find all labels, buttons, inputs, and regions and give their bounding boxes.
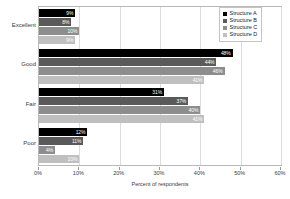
bar-value-label: 40% xyxy=(189,108,199,113)
y-tick-poor: Poor xyxy=(0,140,36,146)
bar-value-label: 44% xyxy=(205,59,215,64)
legend-swatch-icon xyxy=(223,33,227,37)
bar-group-fair: 31%37%40%41% xyxy=(39,88,281,124)
legend-label: Structure A xyxy=(230,11,257,17)
y-tick-good: Good xyxy=(0,61,36,67)
x-tick-label: 30% xyxy=(153,170,164,176)
legend-swatch-icon xyxy=(223,19,227,23)
x-axis: 0%10%20%30%40%50%60% xyxy=(38,167,282,179)
x-tick-label: 60% xyxy=(274,170,285,176)
legend-label: Structure B xyxy=(230,18,258,24)
x-tick-label: 50% xyxy=(234,170,245,176)
bar-row: 11% xyxy=(39,137,281,145)
bar-row: 41% xyxy=(39,115,281,123)
legend-swatch-icon xyxy=(223,12,227,16)
bar-row: 37% xyxy=(39,97,281,105)
bar-good-structure-d[interactable]: 41% xyxy=(39,76,204,84)
x-axis-title: Percent of respondents xyxy=(38,181,282,187)
bar-group-poor: 12%11%4%10% xyxy=(39,128,281,164)
bar-value-label: 10% xyxy=(68,156,78,161)
bar-value-label: 31% xyxy=(152,90,162,95)
bar-excellent-structure-c[interactable]: 10% xyxy=(39,27,79,35)
x-tick-label: 0% xyxy=(34,170,42,176)
bar-poor-structure-d[interactable]: 10% xyxy=(39,155,79,163)
bar-excellent-structure-b[interactable]: 8% xyxy=(39,18,71,26)
bar-value-label: 11% xyxy=(72,138,81,143)
bar-value-label: 9% xyxy=(66,38,73,43)
gridline xyxy=(281,7,282,165)
x-tick-label: 10% xyxy=(73,170,84,176)
bar-good-structure-b[interactable]: 44% xyxy=(39,58,216,66)
y-axis: ExcellentGoodFairPoor xyxy=(0,6,36,166)
bar-row: 12% xyxy=(39,128,281,136)
legend-item-structure-d[interactable]: Structure D xyxy=(223,32,257,38)
bar-fair-structure-c[interactable]: 40% xyxy=(39,106,200,114)
bar-poor-structure-b[interactable]: 11% xyxy=(39,137,83,145)
legend-item-structure-b[interactable]: Structure B xyxy=(223,18,257,24)
bar-good-structure-a[interactable]: 48% xyxy=(39,49,233,57)
x-tick-label: 20% xyxy=(113,170,124,176)
legend-label: Structure C xyxy=(230,25,258,31)
bar-row: 40% xyxy=(39,106,281,114)
bar-value-label: 9% xyxy=(66,11,73,16)
bar-row: 4% xyxy=(39,146,281,154)
legend: Structure AStructure BStructure CStructu… xyxy=(219,7,262,42)
bar-row: 41% xyxy=(39,76,281,84)
bar-value-label: 46% xyxy=(213,68,223,73)
bar-value-label: 41% xyxy=(193,117,203,122)
bar-row: 48% xyxy=(39,49,281,57)
bar-group-good: 48%44%46%41% xyxy=(39,49,281,85)
bar-value-label: 41% xyxy=(193,77,203,82)
bar-chart: ExcellentGoodFairPoor 9%8%10%9%48%44%46%… xyxy=(0,0,290,199)
bar-poor-structure-a[interactable]: 12% xyxy=(39,128,87,136)
bar-value-label: 37% xyxy=(177,99,187,104)
bar-fair-structure-a[interactable]: 31% xyxy=(39,88,164,96)
bar-value-label: 10% xyxy=(68,29,78,34)
bar-row: 46% xyxy=(39,67,281,75)
legend-item-structure-c[interactable]: Structure C xyxy=(223,25,257,31)
x-tick-label: 40% xyxy=(194,170,205,176)
y-tick-excellent: Excellent xyxy=(0,22,36,28)
bar-excellent-structure-a[interactable]: 9% xyxy=(39,9,75,17)
bar-excellent-structure-d[interactable]: 9% xyxy=(39,36,75,44)
bar-row: 31% xyxy=(39,88,281,96)
legend-label: Structure D xyxy=(230,32,258,38)
bar-fair-structure-d[interactable]: 41% xyxy=(39,115,204,123)
bar-fair-structure-b[interactable]: 37% xyxy=(39,97,188,105)
y-tick-fair: Fair xyxy=(0,101,36,107)
bar-value-label: 8% xyxy=(62,20,69,25)
legend-swatch-icon xyxy=(223,26,227,30)
bar-value-label: 12% xyxy=(76,129,86,134)
bar-good-structure-c[interactable]: 46% xyxy=(39,67,225,75)
bar-value-label: 48% xyxy=(221,50,231,55)
bar-row: 10% xyxy=(39,155,281,163)
bar-poor-structure-c[interactable]: 4% xyxy=(39,146,55,154)
bar-row: 44% xyxy=(39,58,281,66)
bar-value-label: 4% xyxy=(46,147,53,152)
legend-item-structure-a[interactable]: Structure A xyxy=(223,11,257,17)
